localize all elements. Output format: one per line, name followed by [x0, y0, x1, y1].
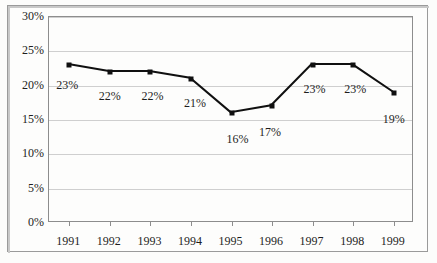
data-marker-1991 [67, 63, 72, 68]
x-tick-1997 [313, 222, 314, 226]
data-marker-1994 [188, 76, 193, 81]
x-tick-1996 [272, 222, 273, 226]
data-label-1999: 19% [383, 113, 405, 125]
data-label-1994: 21% [184, 97, 206, 109]
y-tick-label-25pct: 25% [22, 44, 44, 56]
gridline-25pct [49, 51, 412, 52]
x-tick-label-1995: 1995 [219, 235, 243, 247]
x-tick-label-1998: 1998 [340, 235, 364, 247]
data-label-1992: 22% [99, 90, 121, 102]
x-tick-1995 [232, 222, 233, 226]
x-tick-1994 [191, 222, 192, 226]
y-tick-label-10pct: 10% [22, 147, 44, 159]
data-marker-1997 [310, 63, 315, 68]
x-tick-label-1992: 1992 [97, 235, 121, 247]
x-tick-1998 [353, 222, 354, 226]
data-marker-1999 [391, 90, 396, 95]
x-tick-label-1996: 1996 [259, 235, 283, 247]
y-tick-label-20pct: 20% [22, 79, 44, 91]
y-tick-label-5pct: 5% [28, 182, 44, 194]
x-tick-1991 [69, 222, 70, 226]
data-marker-1998 [351, 63, 356, 68]
y-tick-label-0pct: 0% [28, 216, 44, 228]
x-tick-1992 [110, 222, 111, 226]
data-label-1996: 17% [259, 126, 281, 138]
chart-screenshot: 0%5%10%15%20%25%30% 23%22%22%21%16%17%23… [0, 0, 437, 263]
data-marker-1992 [107, 69, 112, 74]
data-marker-1995 [229, 111, 234, 116]
data-label-1991: 23% [56, 79, 78, 91]
x-tick-1999 [394, 222, 395, 226]
x-tick-label-1991: 1991 [56, 235, 80, 247]
data-label-1995: 16% [227, 133, 249, 145]
x-tick-label-1997: 1997 [300, 235, 324, 247]
data-marker-1996 [270, 104, 275, 109]
y-axis: 0%5%10%15%20%25%30% [0, 0, 44, 263]
gridline-15pct [49, 120, 412, 121]
gridline-10pct [49, 154, 412, 155]
x-tick-1993 [150, 222, 151, 226]
data-label-1997: 23% [304, 83, 326, 95]
data-label-1993: 22% [141, 90, 163, 102]
x-tick-label-1993: 1993 [137, 235, 161, 247]
gridline-30pct [49, 17, 412, 18]
x-tick-label-1994: 1994 [178, 235, 202, 247]
plot-area: 23%22%22%21%16%17%23%23%19% [48, 16, 413, 222]
data-marker-1993 [148, 69, 153, 74]
y-tick-label-15pct: 15% [22, 113, 44, 125]
data-label-1998: 23% [344, 83, 366, 95]
x-tick-label-1999: 1999 [381, 235, 405, 247]
gridline-5pct [49, 189, 412, 190]
y-tick-label-30pct: 30% [22, 10, 44, 22]
